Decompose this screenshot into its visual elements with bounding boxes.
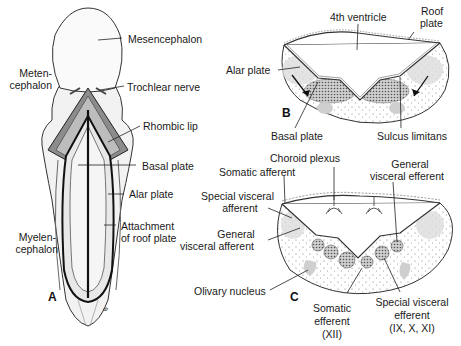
label-alar-plate-b: Alar plate: [226, 64, 270, 76]
label-general-visceral-afferent-line1: General: [206, 228, 266, 240]
label-metencephalon-line1: Meten-: [10, 67, 52, 79]
label-somatic-efferent-line1: Somatic: [305, 302, 359, 314]
label-somatic-afferent: Somatic afferent: [219, 166, 295, 178]
panel-c-drawing: [278, 192, 453, 293]
label-special-visceral-efferent-line2: efferent: [370, 309, 454, 321]
label-general-visceral-efferent-line2: visceral efferent: [370, 170, 444, 182]
label-myelencephalon-line2: cephalon: [8, 243, 58, 255]
label-special-visceral-efferent-line1: Special visceral: [370, 296, 454, 308]
panel-b-drawing: [282, 30, 449, 123]
label-general-visceral-efferent-line1: General: [380, 158, 440, 170]
label-roof-plate-line2: plate: [420, 17, 443, 29]
panel-letter-b: B: [282, 106, 291, 120]
label-olivary-nucleus: Olivary nucleus: [194, 285, 266, 297]
panel-a-drawing: [42, 8, 134, 326]
panel-letter-c: C: [290, 290, 299, 304]
label-special-visceral-afferent-line2: afferent: [210, 202, 270, 214]
label-general-visceral-afferent-line2: visceral afferent: [180, 240, 254, 252]
label-myelencephalon-line1: Myelen-: [8, 231, 56, 243]
artist-signature: dr: [103, 303, 108, 315]
label-attachment-line1: Attachment: [121, 220, 174, 232]
panel-letter-a: A: [48, 290, 57, 304]
label-attachment-line2: of roof plate: [121, 232, 176, 244]
label-special-visceral-afferent-line1: Special visceral: [196, 190, 274, 202]
label-rhombic-lip: Rhombic lip: [143, 120, 198, 132]
label-metencephalon-line2: cephalon: [5, 79, 52, 91]
label-roof-plate-line1: Roof: [421, 5, 443, 17]
label-sulcus-limitans: Sulcus limitans: [377, 130, 447, 142]
label-basal-plate-a: Basal plate: [142, 160, 194, 172]
label-4th-ventricle: 4th ventricle: [330, 11, 387, 23]
label-mesencephalon: Mesencephalon: [128, 33, 202, 45]
label-alar-plate-a: Alar plate: [129, 188, 173, 200]
label-trochlear-nerve: Trochlear nerve: [127, 81, 200, 93]
label-somatic-efferent-line2: efferent: [305, 315, 359, 327]
label-special-visceral-efferent-line3: (IX, X, XI): [370, 322, 454, 334]
label-somatic-efferent-line3: (XII): [305, 328, 359, 340]
label-basal-plate-b: Basal plate: [271, 130, 323, 142]
label-choroid-plexus: Choroid plexus: [270, 152, 340, 164]
